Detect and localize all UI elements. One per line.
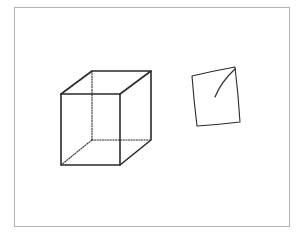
cube — [61, 71, 151, 165]
diagram-canvas — [0, 0, 296, 234]
sketch-inner-stroke — [215, 69, 235, 97]
frame-border — [15, 8, 290, 227]
cube-right-face — [120, 71, 151, 165]
sketch-quadrilateral — [192, 67, 240, 126]
cube-hidden-edge-depth — [61, 140, 92, 165]
hand-drawn-sketch — [192, 67, 240, 126]
cube-front-face — [61, 94, 120, 165]
cube-top-face — [61, 71, 151, 94]
